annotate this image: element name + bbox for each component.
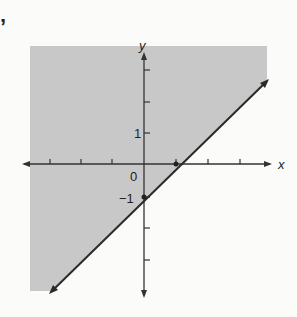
shaded-region [30,46,267,291]
point-x-intercept [174,162,179,167]
x-axis-label: x [277,157,285,172]
origin-label: 0 [130,169,137,184]
point-y-intercept [142,195,147,200]
inequality-graph: y x 0 1 −1 ’ [0,0,297,317]
tick-label-1: 1 [134,126,141,141]
tick-label-neg1: −1 [119,191,134,206]
x-axis-arrow-left [22,161,30,167]
y-axis-arrow-down [141,290,147,298]
corner-mark: ’ [0,14,6,39]
x-axis-arrow-right [264,161,272,167]
